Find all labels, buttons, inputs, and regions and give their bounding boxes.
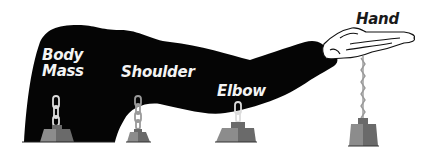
label-shoulder: Shoulder bbox=[121, 64, 195, 80]
weight-shoulder bbox=[126, 129, 151, 142]
weight-elbow bbox=[215, 122, 257, 142]
arm-silhouette bbox=[24, 25, 337, 142]
label-hand: Hand bbox=[356, 11, 399, 27]
label-body-mass-line2: Mass bbox=[42, 63, 84, 79]
hand-icon bbox=[323, 28, 415, 59]
chain-hand bbox=[361, 56, 365, 122]
weight-hand bbox=[348, 118, 379, 146]
label-body-mass-line1: Body bbox=[42, 47, 84, 63]
label-body-mass: Body Mass bbox=[42, 47, 84, 79]
label-elbow: Elbow bbox=[217, 83, 266, 99]
arm-weight-diagram: Body Mass Shoulder Elbow Hand bbox=[0, 0, 437, 153]
